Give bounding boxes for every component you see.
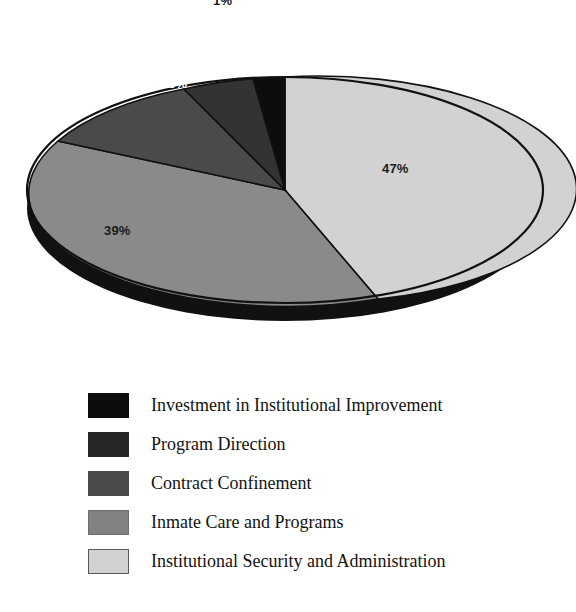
legend-item-investment-in-institutional-improvement[interactable]: Investment in Institutional Improvement <box>88 386 558 425</box>
legend-swatch-icon <box>88 549 129 574</box>
legend-label: Contract Confinement <box>151 474 311 494</box>
legend-item-contract-confinement[interactable]: Contract Confinement <box>88 464 558 503</box>
legend-item-program-direction[interactable]: Program Direction <box>88 425 558 464</box>
legend-swatch-icon <box>88 510 129 535</box>
legend-item-inmate-care-and-programs[interactable]: Inmate Care and Programs <box>88 503 558 542</box>
legend-label: Program Direction <box>151 435 285 455</box>
legend-label: Institutional Security and Administratio… <box>151 552 445 572</box>
pie-label-1: 1% <box>213 0 232 7</box>
legend-swatch-icon <box>88 432 129 457</box>
pie-label-4: 4% <box>233 52 252 65</box>
pie-chart-figure: 47% 39% 8% 4% 1% Investment in Instituti… <box>0 0 576 612</box>
pie-chart-plot: 47% 39% 8% 4% 1% <box>0 0 576 380</box>
legend-label: Inmate Care and Programs <box>151 513 343 533</box>
legend-swatch-icon <box>88 393 129 418</box>
legend-item-institutional-security-and-administration[interactable]: Institutional Security and Administratio… <box>88 542 558 581</box>
pie-label-8: 8% <box>168 77 187 90</box>
legend-label: Investment in Institutional Improvement <box>151 396 442 416</box>
pie-slices <box>29 76 576 306</box>
legend: Investment in Institutional Improvement … <box>88 386 558 581</box>
pie-label-47: 47% <box>382 162 409 175</box>
legend-swatch-icon <box>88 471 129 496</box>
pie-chart-svg <box>0 0 576 380</box>
pie-label-39: 39% <box>104 224 131 237</box>
